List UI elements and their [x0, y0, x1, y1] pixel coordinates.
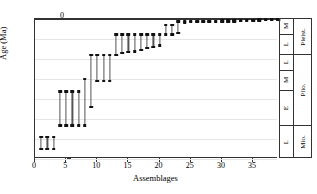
epoch-cell-label: Mio.	[298, 136, 306, 149]
x-tick-label: 15	[123, 161, 131, 170]
subepoch-cell: L	[280, 35, 293, 55]
subepoch-cell-label: L	[283, 42, 291, 46]
x-tick-label: 30	[217, 161, 225, 170]
range-endpoint-marker	[64, 124, 68, 127]
x-tick-label: 35	[248, 161, 256, 170]
subepoch-cell-label: E	[283, 106, 291, 110]
range-bar	[72, 91, 73, 125]
range-endpoint-marker	[89, 106, 93, 109]
range-endpoint-marker	[183, 21, 187, 24]
range-endpoint-marker	[251, 20, 255, 23]
range-endpoint-marker	[83, 78, 87, 81]
range-endpoint-marker	[245, 20, 249, 23]
grid-line	[35, 159, 277, 160]
subepoch-cell-label: L	[283, 140, 291, 144]
range-bar	[59, 91, 60, 125]
epoch-cell-label: Plio.	[298, 83, 306, 96]
range-endpoint-marker	[114, 33, 118, 36]
plot-area	[34, 18, 277, 158]
range-endpoint-marker	[102, 80, 106, 83]
grid-line	[35, 139, 277, 140]
plot-bottom-border	[35, 157, 277, 158]
x-tick-label: 0	[32, 161, 36, 170]
range-endpoint-marker	[139, 33, 143, 36]
range-endpoint-marker	[164, 24, 168, 27]
range-endpoint-marker	[83, 124, 87, 127]
x-tick-label: 25	[186, 161, 194, 170]
range-endpoint-marker	[201, 21, 205, 24]
range-endpoint-marker	[127, 33, 131, 36]
x-tick-label: 10	[92, 161, 100, 170]
range-endpoint-marker	[145, 47, 149, 50]
subepoch-cell: M	[280, 71, 293, 91]
range-bar	[134, 35, 135, 52]
range-endpoint-marker	[264, 19, 268, 22]
range-bar	[128, 35, 129, 52]
chart-figure: Age (Ma) Assemblages 01234567 0510152025…	[0, 0, 317, 194]
range-endpoint-marker	[170, 24, 174, 27]
range-endpoint-marker	[177, 32, 181, 35]
subepoch-column: MLLMEL	[279, 18, 293, 158]
epoch-cell: Mio.	[294, 126, 311, 159]
range-endpoint-marker	[77, 90, 81, 93]
subepoch-cell-label: L	[283, 60, 291, 64]
range-endpoint-marker	[108, 80, 112, 83]
x-tick-label: 20	[155, 161, 163, 170]
range-endpoint-marker	[120, 52, 124, 55]
range-bar	[90, 55, 91, 107]
range-endpoint-marker	[164, 33, 168, 36]
range-bar	[115, 35, 116, 55]
range-endpoint-marker	[120, 33, 124, 36]
grid-line	[35, 39, 277, 40]
range-endpoint-marker	[145, 33, 149, 36]
range-endpoint-marker	[127, 51, 131, 54]
range-endpoint-marker	[195, 21, 199, 24]
range-endpoint-marker	[233, 20, 237, 23]
range-bar	[97, 55, 98, 81]
range-endpoint-marker	[170, 33, 174, 36]
range-endpoint-marker	[220, 21, 224, 24]
range-endpoint-marker	[102, 54, 106, 57]
subepoch-cell: L	[280, 126, 293, 159]
range-endpoint-marker	[226, 20, 230, 23]
range-endpoint-marker	[158, 44, 162, 47]
range-endpoint-marker	[71, 124, 75, 127]
range-endpoint-marker	[152, 33, 156, 36]
range-endpoint-marker	[258, 19, 262, 22]
range-endpoint-marker	[77, 124, 81, 127]
range-endpoint-marker	[96, 54, 100, 57]
subepoch-cell: L	[280, 55, 293, 71]
stratigraphic-column: MLLMEL Pleist.Plio.Mio.	[279, 18, 312, 158]
range-endpoint-marker	[189, 21, 193, 24]
subepoch-cell: E	[280, 91, 293, 126]
range-endpoint-marker	[89, 54, 93, 57]
range-endpoint-marker	[139, 49, 143, 52]
range-endpoint-marker	[152, 46, 156, 49]
epoch-cell: Plio.	[294, 55, 311, 126]
range-endpoint-marker	[158, 33, 162, 36]
range-bar	[109, 55, 110, 81]
range-bar	[103, 55, 104, 81]
range-endpoint-marker	[133, 33, 137, 36]
range-endpoint-marker	[71, 90, 75, 93]
range-endpoint-marker	[52, 148, 56, 151]
range-endpoint-marker	[177, 20, 181, 23]
range-endpoint-marker	[64, 90, 68, 93]
x-axis-title: Assemblages	[34, 173, 277, 183]
x-tick-label: 5	[63, 161, 67, 170]
range-endpoint-marker	[239, 20, 243, 23]
range-endpoint-marker	[114, 54, 118, 57]
range-endpoint-marker	[58, 124, 62, 127]
range-endpoint-marker	[46, 148, 50, 151]
subepoch-cell-label: M	[282, 77, 290, 83]
range-bar	[140, 35, 141, 50]
range-endpoint-marker	[270, 19, 274, 22]
epoch-cell: Pleist.	[294, 19, 311, 55]
grid-line	[35, 59, 277, 60]
range-endpoint-marker	[39, 136, 43, 139]
range-bar	[78, 91, 79, 125]
range-endpoint-marker	[58, 90, 62, 93]
range-endpoint-marker	[214, 21, 218, 24]
range-bar	[122, 35, 123, 53]
range-endpoint-marker	[52, 136, 56, 139]
